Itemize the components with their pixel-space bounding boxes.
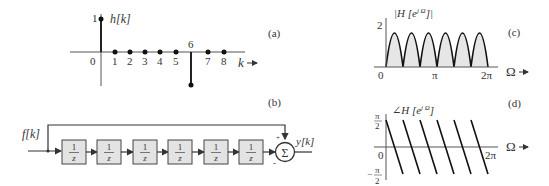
k-tick: 6 [188,38,194,50]
k-tick: 4 [157,55,163,67]
delay-block-6: 1 z [239,140,263,164]
y-tick-1: 1 [92,12,98,24]
phase-title: ∠H [ej Ω] [392,104,434,116]
delay-num: 1 [214,142,219,152]
summer-node: Σ + - [273,134,295,168]
delay-den: z [71,153,76,163]
y-bot-den: 2 [375,176,380,186]
k-tick: 7 [205,55,211,67]
panel-label-c: (c) [508,26,521,39]
delay-num: 1 [178,142,183,152]
y-top-den: 2 [375,121,380,131]
delay-den: z [177,153,182,163]
delay-den: z [106,153,111,163]
panel-d-phase-plot: ∠H [ej Ω] π 2 0 − π 2 2π Ω (d) [367,97,528,186]
figure-canvas: 1 h[k] 0 1 2 3 4 5 6 7 8 k (a) (b) f[k] … [0,0,549,186]
panel-label-b: (b) [268,96,281,109]
y-top-num: π [375,111,380,121]
panel-c-magnitude-plot: 2 |H [ej Ω]| 0 π 2π Ω (c) [374,7,528,81]
y-tick-2: 2 [377,19,383,31]
input-label: f[k] [22,127,40,141]
delay-block-3: 1 z [133,140,157,164]
delay-num: 1 [249,142,254,152]
minus-sign: - [273,158,276,168]
output-label: y[k] [295,135,314,147]
delay-block-1: 1 z [62,140,86,164]
panel-label-d: (d) [508,97,521,110]
k-tick: 5 [173,55,179,67]
k-tick: 1 [112,55,118,67]
plus-sign: + [276,134,280,142]
delay-block-2: 1 z [97,140,121,164]
panel-b-block-diagram: (b) f[k] 1 z 1 z 1 z 1 [22,96,314,168]
delay-den: z [213,153,218,163]
delay-den: z [248,153,253,163]
delay-block-4: 1 z [168,140,192,164]
k-tick: 2 [127,55,133,67]
omega-label-c: Ω [506,64,516,79]
sigma-icon: Σ [282,146,289,160]
h-k-label: h[k] [110,12,131,26]
origin-label: 0 [90,55,96,67]
x-tick: 0 [378,69,384,81]
y-bot-sign: − [367,169,372,179]
delay-block-5: 1 z [204,140,228,164]
k-tick: 8 [221,55,227,67]
delay-num: 1 [143,142,148,152]
k-axis-label: k [238,55,244,70]
delay-num: 1 [72,142,77,152]
omega-label-d: Ω [506,139,516,154]
delay-num: 1 [107,142,112,152]
panel-label-a: (a) [268,27,281,40]
x-tick: 2π [481,69,493,81]
magnitude-title: |H [ej Ω]| [394,7,433,19]
x-tick: 0 [378,149,384,161]
x-tick: 2π [485,149,497,161]
panel-a-stem-plot: 1 h[k] 0 1 2 3 4 5 6 7 8 k (a) [70,12,281,88]
k-tick: 3 [142,55,148,67]
x-tick: π [432,69,438,81]
delay-den: z [142,153,147,163]
y-bot-num: π [375,165,380,175]
